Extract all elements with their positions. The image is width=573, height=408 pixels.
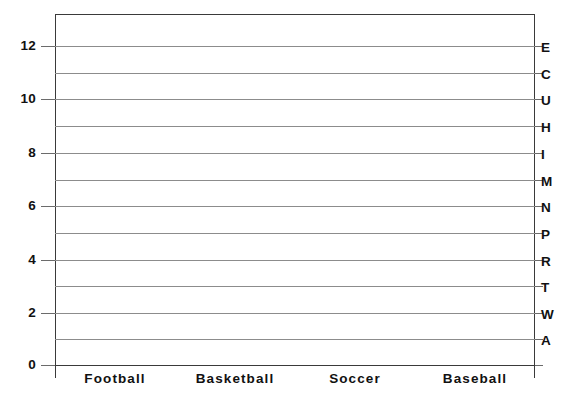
y-tick-mark-2 bbox=[41, 313, 55, 314]
gridline-12 bbox=[55, 46, 535, 47]
y-tick-label-8: 8 bbox=[0, 146, 36, 160]
gridline-6 bbox=[55, 206, 535, 207]
gridline-5 bbox=[55, 233, 535, 234]
y-tick-label-6: 6 bbox=[0, 199, 36, 213]
right-axis-letter-4: R bbox=[541, 255, 565, 269]
right-axis-letter-11: C bbox=[541, 68, 565, 82]
y-tick-label-12: 12 bbox=[0, 39, 36, 53]
x-axis-label-basketball: Basketball bbox=[175, 369, 295, 393]
y-tick-label-10: 10 bbox=[0, 92, 36, 106]
y-tick-label-2: 2 bbox=[0, 306, 36, 320]
gridline-2 bbox=[55, 313, 535, 314]
right-tick-mark-0 bbox=[535, 365, 543, 366]
y-tick-mark-8 bbox=[41, 153, 55, 154]
gridline-7 bbox=[55, 180, 535, 181]
y-tick-mark-10 bbox=[41, 99, 55, 100]
right-axis-letter-2: W bbox=[541, 308, 565, 322]
x-axis-label-baseball: Baseball bbox=[415, 369, 535, 393]
right-axis-letter-3: T bbox=[541, 281, 565, 295]
gridline-11 bbox=[55, 73, 535, 74]
x-axis-label-soccer: Soccer bbox=[295, 369, 415, 393]
right-axis-letter-1: A bbox=[541, 334, 565, 348]
y-tick-mark-12 bbox=[41, 46, 55, 47]
x-axis-labels: Football Basketball Soccer Baseball bbox=[55, 369, 535, 393]
right-axis-letter-6: N bbox=[541, 201, 565, 215]
right-axis-letter-5: P bbox=[541, 228, 565, 242]
y-tick-mark-4 bbox=[41, 260, 55, 261]
bar-chart: 12 10 8 6 4 2 0 E C U H I M N P R T W A … bbox=[0, 0, 573, 408]
gridline-0-baseline bbox=[55, 365, 535, 366]
y-tick-mark-0 bbox=[41, 365, 55, 366]
x-axis-label-football: Football bbox=[55, 369, 175, 393]
right-axis-letter-10: U bbox=[541, 94, 565, 108]
right-axis-letter-8: I bbox=[541, 148, 565, 162]
gridline-1 bbox=[55, 339, 535, 340]
gridline-4 bbox=[55, 260, 535, 261]
y-tick-label-4: 4 bbox=[0, 253, 36, 267]
right-axis-letter-7: M bbox=[541, 175, 565, 189]
gridline-9 bbox=[55, 126, 535, 127]
right-axis-letter-9: H bbox=[541, 121, 565, 135]
gridline-3 bbox=[55, 286, 535, 287]
gridline-8 bbox=[55, 153, 535, 154]
gridline-10 bbox=[55, 99, 535, 100]
y-tick-mark-6 bbox=[41, 206, 55, 207]
right-axis-letter-12: E bbox=[541, 41, 565, 55]
y-tick-label-0: 0 bbox=[0, 358, 36, 372]
